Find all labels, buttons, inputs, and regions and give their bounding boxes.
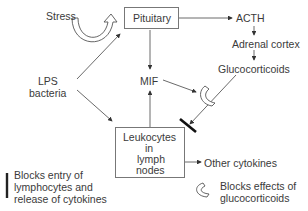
- node-pituitary-box: Pituitary: [124, 7, 179, 29]
- node-pituitary: Pituitary: [133, 12, 171, 24]
- node-lps-line1: LPS: [38, 75, 58, 87]
- legend-curve-text-1: Blocks effects of: [220, 180, 296, 192]
- node-mif: MIF: [140, 75, 158, 87]
- legend-crescent-icon: [197, 183, 209, 197]
- node-adrenal-cortex: Adrenal cortex: [232, 38, 300, 50]
- legend-bar-text-2: lymphocytes and: [14, 181, 93, 193]
- node-stress: Stress: [46, 10, 76, 22]
- stress-curved-arrow-icon: [72, 14, 117, 42]
- legend-bar-text-3: release of cytokines: [14, 193, 107, 205]
- glucocorticoid-block-icon: [201, 86, 215, 106]
- node-acth: ACTH: [236, 12, 265, 24]
- node-other-cytokines: Other cytokines: [204, 157, 277, 169]
- legend-curve-text-2: glucocorticoids: [220, 192, 289, 204]
- legend-bar-text-1: Blocks entry of: [14, 169, 83, 181]
- node-lps-line2: bacteria: [29, 87, 66, 99]
- node-leukocytes-box: Leukocytes in lymph nodes: [115, 127, 185, 178]
- node-leukocytes-line4: nodes: [136, 164, 165, 176]
- node-glucocorticoids: Glucocorticoids: [218, 63, 290, 75]
